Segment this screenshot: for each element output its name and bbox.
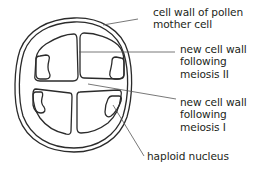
label-line: meiosis II bbox=[180, 68, 247, 80]
leader-line-pollen-mother-cell-wall bbox=[103, 19, 138, 25]
haploid-nucleus-top-left bbox=[36, 55, 50, 79]
label-line: following bbox=[180, 55, 247, 67]
label-line: new cell wall bbox=[180, 43, 247, 55]
cell-top-left bbox=[35, 34, 78, 81]
cell-bottom-left bbox=[33, 89, 72, 134]
label-line: meiosis I bbox=[180, 121, 247, 133]
label-line: mother cell bbox=[153, 18, 243, 30]
label-line: haploid nucleus bbox=[147, 150, 229, 162]
label-haploid-nucleus: haploid nucleus bbox=[147, 150, 229, 162]
label-line: cell wall of pollen bbox=[153, 6, 243, 18]
label-new-cell-wall-meiosis-ii: new cell wall following meiosis II bbox=[180, 43, 247, 80]
haploid-nucleus-bottom-right bbox=[105, 96, 121, 117]
label-line: new cell wall bbox=[180, 96, 247, 108]
pollen-tetrad-diagram: cell wall of pollen mother cell new cell… bbox=[0, 0, 264, 174]
label-cell-wall-of-pollen-mother-cell: cell wall of pollen mother cell bbox=[153, 6, 243, 31]
haploid-nucleus-top-right bbox=[110, 57, 124, 79]
label-new-cell-wall-meiosis-i: new cell wall following meiosis I bbox=[180, 96, 247, 133]
haploid-nucleus-bottom-left bbox=[33, 92, 45, 113]
label-line: following bbox=[180, 108, 247, 120]
